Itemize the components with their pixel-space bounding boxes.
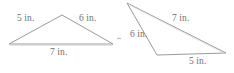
- left-triangle-right-side-label: 6 in.: [79, 13, 96, 23]
- two-triangles-figure: 5 in. 6 in. 7 in. 7 in. 6 in. 5 in.: [0, 0, 234, 73]
- right-triangle-upper-side-label: 7 in.: [172, 13, 189, 23]
- right-triangle-left-side-label: 6 in.: [130, 29, 147, 39]
- right-triangle-bottom-side-label: 5 in.: [189, 56, 206, 66]
- left-triangle-base-label: 7 in.: [50, 47, 67, 57]
- left-triangle-left-side-label: 5 in.: [17, 13, 34, 23]
